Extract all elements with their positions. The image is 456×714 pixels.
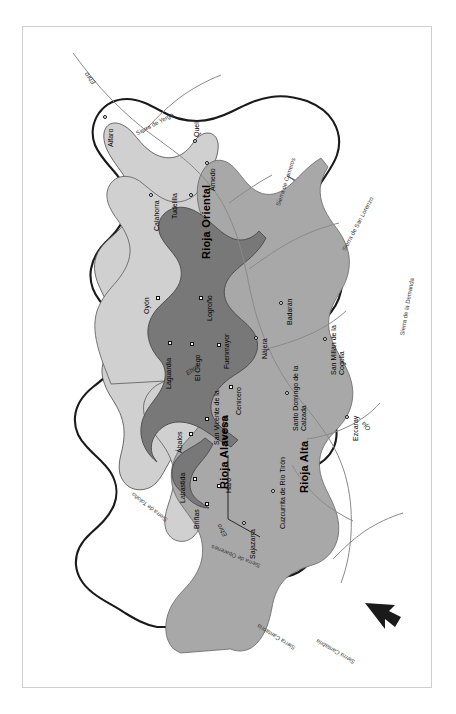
town-marker-sajazarra[interactable]	[242, 521, 246, 525]
town-label-cuzcurrita: Cuzcurrita de Río Tirón	[279, 453, 287, 529]
town-marker-fuenmayor[interactable]	[217, 343, 221, 347]
town-label-sajazarra: Sajazarra	[249, 529, 256, 559]
town-label-santo-domingo: Santo Domingo de la Calzada	[292, 357, 308, 431]
town-label-san-vicente: San Vicente de la Sonsierra	[213, 375, 229, 445]
town-marker-abalos[interactable]	[189, 432, 193, 436]
town-label-quel: Quel	[193, 122, 200, 137]
town-marker-arnedo[interactable]	[205, 161, 209, 165]
town-marker-san-vicente[interactable]	[205, 417, 209, 421]
town-marker-badaran[interactable]	[279, 301, 283, 305]
town-label-fuenmayor: Fuenmayor	[223, 334, 230, 369]
town-marker-el-ciego[interactable]	[190, 342, 194, 346]
town-marker-logrono[interactable]	[199, 296, 203, 300]
town-marker-cuzcurrita[interactable]	[271, 489, 275, 493]
town-label-oyon: Oyón	[143, 297, 150, 314]
region-label-rioja-oriental: Rioja Oriental	[201, 185, 212, 259]
town-marker-haro[interactable]	[217, 484, 221, 488]
river-tributary-4	[333, 513, 403, 559]
town-label-ezcaray: Ezcaray	[352, 416, 359, 441]
town-marker-quel[interactable]	[193, 139, 197, 143]
town-marker-calahorra[interactable]	[149, 193, 153, 197]
town-marker-labastida[interactable]	[193, 477, 197, 481]
town-label-arnedo: Arnedo	[209, 168, 216, 191]
town-label-abalos: Ábalos	[176, 432, 183, 453]
town-label-badaran: Badarán	[286, 299, 293, 325]
town-label-labastida: Labastida	[179, 473, 186, 503]
town-marker-laguardia[interactable]	[168, 341, 172, 345]
town-label-haro: Haro	[225, 478, 232, 493]
town-marker-santo-domingo[interactable]	[285, 391, 289, 395]
town-label-najera: Nájera	[261, 338, 268, 359]
map-frame: Rioja Alavesa Rioja Alta Rioja Oriental …	[22, 26, 432, 688]
town-marker-cenicero[interactable]	[229, 385, 233, 389]
town-label-laguardia: Laguardia	[165, 358, 172, 389]
region-label-rioja-alta: Rioja Alta	[299, 441, 310, 493]
town-marker-alfaro[interactable]	[103, 115, 107, 119]
town-label-calahorra: Calahorra	[153, 200, 160, 231]
town-marker-oyon[interactable]	[156, 296, 160, 300]
town-marker-san-millan[interactable]	[323, 337, 327, 341]
town-marker-najera[interactable]	[254, 336, 258, 340]
map-rotated-stage: Rioja Alavesa Rioja Alta Rioja Oriental …	[23, 27, 431, 688]
town-marker-ezcaray[interactable]	[345, 415, 349, 419]
town-label-alfaro: Alfaro	[107, 129, 114, 147]
town-marker-tudelilla[interactable]	[189, 193, 193, 197]
town-label-tudelilla: Tudelilla	[171, 193, 178, 219]
town-label-san-millan: San Millán de la Cogolla	[330, 305, 346, 375]
town-marker-brinas[interactable]	[205, 502, 209, 506]
town-label-cenicero: Cenicero	[235, 387, 242, 415]
town-label-brinas: Briñas	[193, 509, 200, 529]
town-label-logrono: Logroño	[206, 295, 213, 321]
north-arrow-glyph	[365, 603, 401, 629]
